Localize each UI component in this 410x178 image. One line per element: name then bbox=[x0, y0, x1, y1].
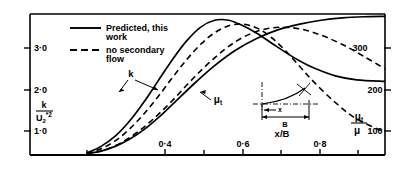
chart-svg: 3·0 2·0 1·0 300 200 100 0·4 0·6 0·8 x/B … bbox=[0, 0, 410, 178]
xtick-label-0p6: 0·6 bbox=[236, 139, 249, 149]
xtick-label-0p4: 0·4 bbox=[158, 139, 171, 149]
legend-label-no-secondary-line2: flow bbox=[106, 54, 125, 64]
chart-background bbox=[0, 0, 410, 178]
ytick-right-label-300: 300 bbox=[352, 43, 367, 53]
ytick-left-label-1: 1·0 bbox=[34, 126, 47, 136]
inset-label-B: B bbox=[282, 120, 288, 129]
chart-figure: 3·0 2·0 1·0 300 200 100 0·4 0·6 0·8 x/B … bbox=[0, 0, 410, 178]
ytick-left-label-3: 3·0 bbox=[34, 43, 47, 53]
legend-label-predicted-line2: work bbox=[105, 32, 128, 42]
y-axis-right-label-denominator: μ bbox=[354, 125, 360, 136]
ytick-right-label-200: 200 bbox=[367, 85, 382, 95]
xtick-label-0p8: 0·8 bbox=[313, 139, 326, 149]
curve-label-k: k bbox=[128, 68, 134, 79]
x-axis-label: x/B bbox=[275, 128, 290, 139]
inset-label-x: x bbox=[278, 106, 282, 113]
ytick-left-label-2: 2·0 bbox=[34, 85, 47, 95]
